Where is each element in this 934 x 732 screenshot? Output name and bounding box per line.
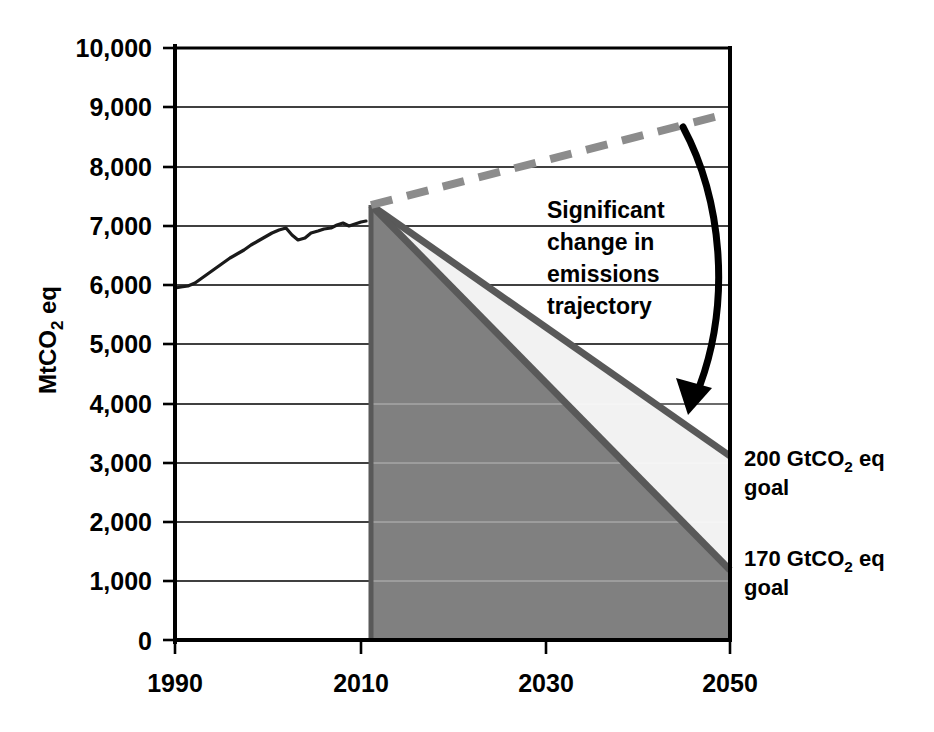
emissions-trajectory-chart: 10,000 9,000 8,000 7,000 6,000 5,000 4,0… — [0, 0, 934, 732]
y-axis-title-pre: MtCO — [34, 330, 61, 394]
y-tick-label-7000: 7,000 — [89, 212, 152, 240]
y-tick-label-1000: 1,000 — [89, 567, 152, 595]
y-axis-title-subscript: 2 — [48, 321, 67, 330]
annotation-line-4: trajectory — [547, 293, 652, 319]
svg-text:170 GtCO2 eq: 170 GtCO2 eq — [744, 546, 885, 575]
y-tick-label-6000: 6,000 — [89, 271, 152, 299]
goal-200-subscript: 2 — [844, 458, 853, 475]
goal-200-post: eq — [853, 446, 885, 471]
goal-170-post: eq — [853, 546, 885, 571]
x-tick-label-2030: 2030 — [518, 669, 574, 697]
goal-170-subscript: 2 — [844, 558, 853, 575]
y-tick-label-9000: 9,000 — [89, 93, 152, 121]
goal-200-line-2: goal — [744, 475, 789, 500]
y-tick-label-3000: 3,000 — [89, 449, 152, 477]
y-tick-label-5000: 5,000 — [89, 330, 152, 358]
y-tick-label-4000: 4,000 — [89, 390, 152, 418]
chart-container: 10,000 9,000 8,000 7,000 6,000 5,000 4,0… — [0, 0, 934, 732]
annotation-line-2: change in — [547, 229, 654, 255]
y-axis-title-post: eq — [34, 286, 61, 321]
y-tick-label-8000: 8,000 — [89, 153, 152, 181]
goal-170-line-2: goal — [744, 575, 789, 600]
goal-170-pre: 170 GtCO — [744, 546, 844, 571]
x-tick-label-2050: 2050 — [702, 669, 758, 697]
x-tick-label-2010: 2010 — [333, 669, 389, 697]
y-tick-label-0: 0 — [138, 627, 152, 655]
annotation-line-1: Significant — [547, 197, 665, 223]
y-tick-label-2000: 2,000 — [89, 508, 152, 536]
x-tick-label-1990: 1990 — [147, 669, 203, 697]
annotation-line-3: emissions — [547, 261, 660, 287]
goal-200-pre: 200 GtCO — [744, 446, 844, 471]
svg-text:200 GtCO2 eq: 200 GtCO2 eq — [744, 446, 885, 475]
y-tick-label-10000: 10,000 — [76, 34, 152, 62]
